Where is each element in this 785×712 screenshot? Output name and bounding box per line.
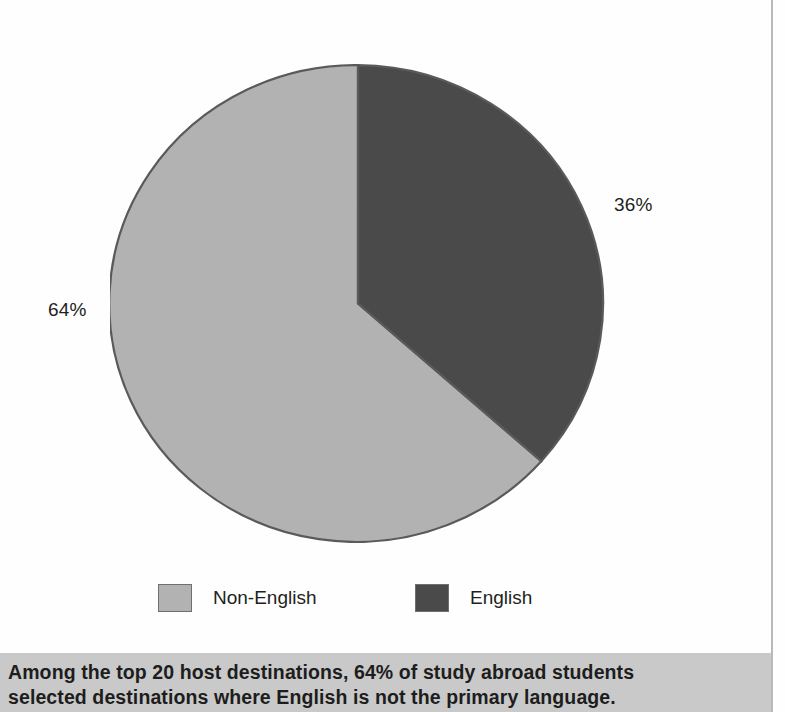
caption-bar: Among the top 20 host destinations, 64% … xyxy=(0,653,771,712)
caption-line-1: Among the top 20 host destinations, 64% … xyxy=(8,660,757,685)
slice-value-label-english: 36% xyxy=(614,194,653,216)
pie-chart-figure: 36% 64% Non-English English Among the to… xyxy=(0,0,785,712)
legend-swatch-english xyxy=(415,584,449,612)
caption-line-2: selected destinations where English is n… xyxy=(8,685,757,710)
legend-label-non-english: Non-English xyxy=(213,587,317,609)
legend-item-non-english[interactable]: Non-English xyxy=(158,582,317,614)
legend-label-english: English xyxy=(470,587,532,609)
pie-chart xyxy=(110,64,606,543)
pie-chart-svg xyxy=(110,64,606,543)
slice-value-label-non-english: 64% xyxy=(48,299,87,321)
legend-item-english[interactable]: English xyxy=(415,582,532,614)
figure-right-rule xyxy=(771,0,773,712)
chart-legend: Non-English English xyxy=(0,582,771,622)
legend-swatch-non-english xyxy=(158,584,192,612)
